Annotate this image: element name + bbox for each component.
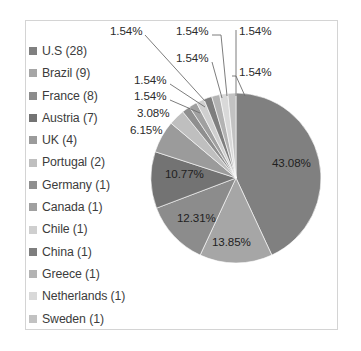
pie-data-label: 1.54% xyxy=(176,52,208,64)
legend-item-label: Austria (7) xyxy=(42,112,98,124)
legend-item[interactable]: Greece (1) xyxy=(29,263,147,285)
pie-data-label: 12.31% xyxy=(177,212,216,224)
legend-item[interactable]: Netherlands (1) xyxy=(29,285,147,307)
pie-data-label: 1.54% xyxy=(239,66,271,78)
legend-item-label: China (1) xyxy=(42,246,92,258)
legend-swatch-icon xyxy=(29,226,37,234)
legend-item[interactable]: U.S (28) xyxy=(29,40,147,62)
legend-swatch-icon xyxy=(29,203,37,211)
legend-swatch-icon xyxy=(29,270,37,278)
legend-swatch-icon xyxy=(29,292,37,300)
legend-swatch-icon xyxy=(29,114,37,122)
legend-swatch-icon xyxy=(29,136,37,144)
pie-data-label: 43.08% xyxy=(272,157,311,169)
pie-data-label: 10.77% xyxy=(165,168,204,180)
legend-item[interactable]: Portugal (2) xyxy=(29,151,147,173)
pie-data-label: 13.85% xyxy=(212,236,251,248)
legend-item-label: Netherlands (1) xyxy=(42,290,125,302)
legend-item-label: Greece (1) xyxy=(42,268,100,280)
legend-swatch-icon xyxy=(29,159,37,167)
legend-item[interactable]: Brazil (9) xyxy=(29,62,147,84)
legend-item-label: Germany (1) xyxy=(42,179,110,191)
legend-item-label: France (8) xyxy=(42,90,98,102)
legend-item-label: Sweden (1) xyxy=(42,313,104,325)
pie-data-label: 1.54% xyxy=(134,74,166,86)
legend-swatch-icon xyxy=(29,69,37,77)
legend-item[interactable]: France (8) xyxy=(29,85,147,107)
legend-swatch-icon xyxy=(29,248,37,256)
legend-item-label: Canada (1) xyxy=(42,201,103,213)
pie-data-label: 1.54% xyxy=(176,25,208,37)
legend-item-label: UK (4) xyxy=(42,134,77,146)
legend-swatch-icon xyxy=(29,92,37,100)
legend-item-label: Portugal (2) xyxy=(42,156,105,168)
legend-swatch-icon xyxy=(29,181,37,189)
pie-data-label: 3.08% xyxy=(137,107,169,119)
legend-item[interactable]: Canada (1) xyxy=(29,196,147,218)
pie-data-label: 1.54% xyxy=(134,90,166,102)
pie-data-label: 6.15% xyxy=(130,124,162,136)
pie-data-label: 1.54% xyxy=(110,25,142,37)
legend-item-label: U.S (28) xyxy=(42,45,87,57)
pie-chart-figure: U.S (28)Brazil (9)France (8)Austria (7)U… xyxy=(0,0,361,351)
legend-item[interactable]: Chile (1) xyxy=(29,218,147,240)
legend-item-label: Chile (1) xyxy=(42,223,88,235)
legend-item[interactable]: China (1) xyxy=(29,241,147,263)
legend-item[interactable]: Sweden (1) xyxy=(29,308,147,330)
legend-swatch-icon xyxy=(29,315,37,323)
legend-swatch-icon xyxy=(29,47,37,55)
chart-legend: U.S (28)Brazil (9)France (8)Austria (7)U… xyxy=(29,40,147,330)
pie-data-label: 1.54% xyxy=(239,25,271,37)
legend-item[interactable]: Germany (1) xyxy=(29,174,147,196)
legend-item-label: Brazil (9) xyxy=(42,67,90,79)
